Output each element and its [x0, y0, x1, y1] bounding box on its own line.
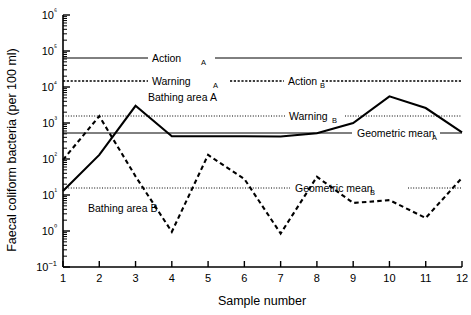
x-tick-label: 11 [420, 272, 431, 284]
x-axis-title: Sample number [218, 294, 306, 308]
faecal-coliform-log-chart: Faecal coliform bacteria (per 100 ml) 10… [0, 0, 471, 315]
x-tick-label: 5 [205, 272, 211, 284]
x-tick-label: 1 [60, 272, 66, 284]
y-tick-label: 10⁵ [42, 43, 57, 57]
annotation-geometric-mean-a: Geometric mean A [357, 127, 437, 142]
x-tick-label: 3 [132, 272, 138, 284]
svg-text:B: B [320, 81, 325, 90]
x-tick-label: 2 [96, 272, 102, 284]
y-tick-label: 10¹ [42, 187, 57, 201]
y-axis-title: Faecal coliform bacteria (per 100 ml) [5, 48, 19, 252]
annotation-bathing-area-b: Bathing area B [88, 202, 157, 214]
y-tick-label: 10² [42, 151, 57, 165]
annotation-action-b: Action B [288, 75, 325, 90]
svg-text:Action: Action [288, 75, 317, 87]
x-tick-label: 6 [241, 272, 247, 284]
x-tick-label: 9 [350, 272, 356, 284]
x-tick-label: 8 [314, 272, 320, 284]
svg-text:A: A [201, 58, 206, 67]
y-tick-label: 10⁰ [42, 223, 57, 237]
svg-text:Warning: Warning [152, 75, 191, 87]
svg-text:B: B [370, 188, 375, 197]
svg-text:Action: Action [152, 52, 181, 64]
y-tick-label: 10⁴ [42, 79, 57, 93]
x-tick-label: 12 [456, 272, 468, 284]
x-tick-label: 7 [278, 272, 284, 284]
y-tick-label: 10−1 [36, 259, 57, 273]
series-line-bathing-area-a [63, 96, 462, 191]
annotation-warning-b: Warning B [289, 110, 337, 125]
svg-text:B: B [332, 116, 337, 125]
svg-text:Geometric mean: Geometric mean [295, 182, 373, 194]
annotation-warning-a: Warning A [152, 75, 218, 90]
svg-text:Bathing area B: Bathing area B [88, 202, 157, 214]
y-tick-label: 10⁶ [42, 7, 57, 21]
x-axis-ticks: 123456789101112 [60, 261, 468, 284]
chart-container: Faecal coliform bacteria (per 100 ml) 10… [0, 0, 471, 315]
svg-text:A: A [213, 81, 218, 90]
annotation-bathing-area-a: Bathing area A [148, 91, 217, 103]
x-tick-label: 4 [169, 272, 175, 284]
y-tick-label: 10³ [42, 115, 57, 129]
svg-text:Warning: Warning [289, 110, 328, 122]
svg-text:A: A [432, 133, 437, 142]
annotation-action-a: Action A [152, 52, 206, 67]
svg-text:Geometric mean: Geometric mean [357, 127, 435, 139]
annotation-geometric-mean-b: Geometric mean B [295, 182, 375, 197]
x-tick-label: 10 [383, 272, 395, 284]
svg-text:Bathing area A: Bathing area A [148, 91, 217, 103]
